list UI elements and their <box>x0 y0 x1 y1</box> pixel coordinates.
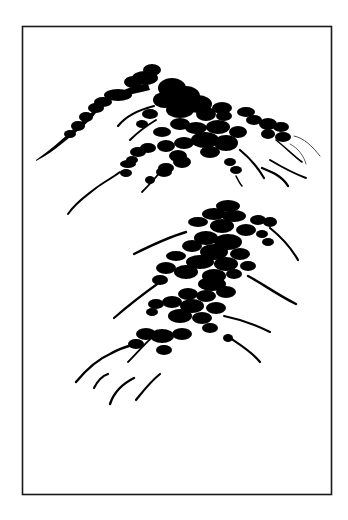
ink-dot <box>200 146 220 158</box>
grass-stroke <box>110 378 134 404</box>
ink-dot <box>71 121 85 131</box>
ink-dot <box>240 261 256 271</box>
ink-dot <box>273 122 289 132</box>
ink-dot <box>230 166 242 174</box>
ink-dot <box>172 328 192 340</box>
ink-dot <box>202 208 226 220</box>
ink-dot <box>182 240 202 252</box>
ink-dot <box>168 309 192 323</box>
ink-dot <box>156 262 176 274</box>
ink-dot <box>157 140 175 152</box>
ink-dot <box>120 160 136 168</box>
ink-dot <box>262 238 274 246</box>
ink-dot <box>173 156 191 168</box>
ink-dot <box>120 169 132 177</box>
ink-dot <box>156 345 172 355</box>
grass-stroke <box>94 374 108 388</box>
ink-dot <box>130 147 146 157</box>
ridge-stroke <box>134 232 186 254</box>
ridge-stroke <box>240 150 264 178</box>
ink-dot <box>206 302 226 314</box>
ink-dot <box>178 288 198 300</box>
ridge-stroke <box>262 168 288 186</box>
ink-dot <box>79 112 93 122</box>
ink-dot <box>256 230 268 238</box>
ink-dot <box>263 217 277 227</box>
ridge-stroke <box>276 140 302 162</box>
ink-dot <box>214 257 238 271</box>
ink-dot <box>230 248 250 260</box>
ink-dot <box>226 269 242 279</box>
ink-dot <box>152 275 168 285</box>
ink-dot <box>236 224 256 236</box>
hair-stroke <box>294 136 320 156</box>
ink-dot <box>216 111 232 121</box>
ink-dot <box>216 286 236 298</box>
upper-mountain <box>36 64 320 214</box>
ridge-stroke <box>230 338 260 362</box>
ink-dot <box>148 299 164 309</box>
ridge-stroke <box>142 172 160 192</box>
ink-dot <box>88 103 104 113</box>
ink-dot <box>192 312 212 324</box>
ink-dot <box>146 308 158 316</box>
ink-dot <box>64 130 76 138</box>
ink-dot <box>261 129 275 139</box>
ink-dot <box>153 127 171 137</box>
ink-dot <box>224 158 236 166</box>
ridge-stroke <box>248 276 296 304</box>
ink-dot <box>206 120 230 134</box>
ink-dot <box>166 102 194 118</box>
ink-dot <box>162 296 182 308</box>
ink-dot <box>196 290 216 302</box>
ink-dot <box>210 219 234 233</box>
ink-dot <box>188 217 208 227</box>
ink-dot <box>174 265 198 279</box>
ridge-stroke <box>270 228 298 260</box>
artwork-canvas: Ink brush mountain study <box>0 0 348 520</box>
ridge-stroke <box>236 176 242 186</box>
ink-dot <box>202 323 218 333</box>
grass-strokes <box>94 374 160 404</box>
ridge-stroke <box>224 316 270 332</box>
lower-mountain <box>76 200 298 382</box>
grass-stroke <box>136 374 160 400</box>
ink-dot <box>142 109 158 119</box>
ridge-stroke <box>68 172 120 214</box>
ink-dot <box>166 251 186 261</box>
ink-dot <box>174 137 194 149</box>
ridge-stroke <box>76 344 136 382</box>
ink-drawing <box>0 0 348 520</box>
